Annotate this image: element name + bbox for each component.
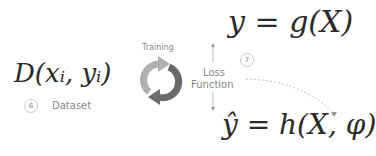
arrow-down-icon (211, 107, 215, 111)
refresh-cycle-icon (144, 56, 179, 105)
arrow-up-icon (211, 43, 215, 47)
dotted-arrow-icon (331, 112, 337, 117)
